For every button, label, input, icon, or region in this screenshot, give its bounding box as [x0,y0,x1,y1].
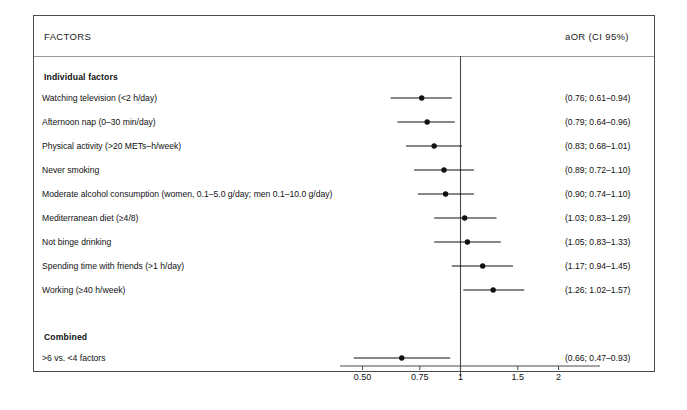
group-header-combined: Combined [44,332,87,342]
factor-label: Afternoon nap (0–30 min/day) [42,117,156,127]
factor-label: Mediterranean diet (≥4/8) [42,213,138,223]
group-header-individual-factors: Individual factors [44,72,118,82]
x-tick-label: 2 [556,372,561,382]
aor-ci-value: (1.05; 0.83–1.33) [565,237,630,247]
column-header-factors: FACTORS [44,31,91,42]
factor-label: Moderate alcohol consumption (women, 0.1… [42,189,332,199]
factor-label: Working (≥40 h/week) [42,285,125,295]
x-tick-label: 1 [458,372,463,382]
x-tick-label: 0.75 [411,372,429,382]
x-tick-label: 0.50 [354,372,372,382]
x-tick-label: 1.5 [512,372,525,382]
aor-ci-value: (0.66; 0.47–0.93) [565,353,630,363]
factor-label: Physical activity (>20 METs–h/week) [42,141,181,151]
header-divider [34,56,654,57]
factor-label: Not binge drinking [42,237,111,247]
aor-ci-value: (1.17; 0.94–1.45) [565,261,630,271]
factor-label: >6 vs. <4 factors [42,353,106,363]
factor-label: Spending time with friends (>1 h/day) [42,261,184,271]
aor-ci-value: (1.03; 0.83–1.29) [565,213,630,223]
factor-label: Watching television (<2 h/day) [42,93,157,103]
aor-ci-value: (0.79; 0.64–0.96) [565,117,630,127]
aor-ci-value: (0.76; 0.61–0.94) [565,93,630,103]
aor-ci-value: (0.83; 0.68–1.01) [565,141,630,151]
forest-plot-figure: FACTORS aOR (CI 95%) Individual factorsW… [0,0,687,410]
aor-ci-value: (1.26; 1.02–1.57) [565,285,630,295]
aor-ci-value: (0.89; 0.72–1.10) [565,165,630,175]
factor-label: Never smoking [42,165,99,175]
column-header-aor: aOR (CI 95%) [565,31,629,42]
aor-ci-value: (0.90; 0.74–1.10) [565,189,630,199]
